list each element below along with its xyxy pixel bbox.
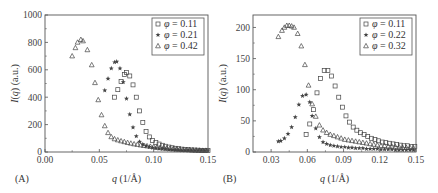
data-marker-star [350,145,355,150]
data-marker-triangle [109,134,114,138]
data-marker-star [317,134,322,139]
legend-entry: φ = 0.32 [372,40,406,51]
data-marker-star [118,66,123,71]
data-marker-square [319,77,323,81]
data-marker-star [102,88,107,93]
data-marker-star [124,96,129,101]
data-marker-star [282,136,287,141]
data-marker-triangle [295,31,300,35]
data-marker-square [311,108,315,112]
data-marker-square [131,83,135,87]
x-axis-label: q (1/Å) [320,173,349,185]
data-marker-square [333,84,337,88]
legend-entry: φ = 0.22 [372,29,406,40]
y-axis-label: I(q) (a.u.) [217,64,229,104]
panel-label: (A) [15,173,29,185]
data-marker-square [113,95,117,99]
data-marker-star [304,92,309,97]
data-marker-star [342,144,347,149]
y-tick-label: 600 [28,65,43,75]
data-marker-triangle [89,62,94,66]
data-marker-star [353,146,358,151]
data-marker-triangle [106,130,111,134]
data-marker-square [144,129,148,133]
data-marker-star [109,66,114,71]
data-marker-square [348,120,352,124]
data-marker-square [315,91,319,95]
data-marker-triangle [96,97,101,101]
panel-b: 0501001502000.030.060.090.120.15q (1/Å)I… [217,15,425,185]
y-axis-label: I(q) (a.u.) [9,64,21,104]
data-marker-triangle [299,44,304,48]
y-tick-label: 400 [28,93,43,103]
y-tick-label: 200 [28,120,43,130]
data-marker-star [106,76,111,81]
legend: φ = 0.11φ = 0.21φ = 0.42 [152,18,204,55]
legend-entry: φ = 0.42 [164,40,198,51]
data-marker-star [296,102,301,107]
panel-a: 020040060080010000.000.050.100.15q (1/Å)… [9,10,217,185]
y-tick-label: 800 [28,38,43,48]
data-marker-star [324,141,329,146]
data-marker-triangle [102,123,107,127]
data-marker-star [339,144,344,149]
data-marker-triangle [93,80,98,84]
x-tick-label: 0.15 [200,155,217,165]
y-tick-label: 50 [241,116,251,126]
data-marker-triangle [317,123,322,127]
x-tick-label: 0.03 [263,155,280,165]
data-marker-star [346,145,351,150]
data-marker-star [293,115,298,120]
legend-entry: φ = 0.11 [164,18,197,29]
data-marker-triangle [99,112,104,116]
x-axis-label: q (1/Å) [112,173,141,185]
y-tick-label: 200 [236,23,251,33]
data-marker-triangle [85,47,90,51]
x-tick-label: 0.15 [408,155,425,165]
data-marker-square [138,109,142,113]
data-marker-star [364,146,369,151]
data-marker-star [134,134,139,139]
data-marker-star [360,146,365,151]
x-tick-label: 0.09 [335,155,352,165]
data-marker-star [286,131,291,136]
data-marker-star [368,146,373,151]
data-marker-triangle [306,83,311,87]
data-marker-star [307,100,312,105]
legend-entry: φ = 0.11 [372,18,405,29]
figure: 020040060080010000.000.050.100.15q (1/Å)… [0,0,438,193]
data-marker-star [131,125,136,130]
data-marker-star [335,144,340,149]
x-tick-label: 0.05 [91,155,108,165]
x-tick-label: 0.12 [371,155,388,165]
y-tick-label: 0 [245,147,250,157]
data-marker-triangle [73,45,78,49]
y-tick-label: 150 [236,54,251,64]
data-marker-square [141,121,145,125]
data-marker-star [331,143,336,148]
data-marker-triangle [70,54,75,58]
data-marker-star [357,146,362,151]
data-marker-star [127,112,132,117]
data-marker-square [116,88,120,92]
legend: φ = 0.11φ = 0.22φ = 0.32 [360,18,412,55]
data-marker-triangle [313,114,318,118]
legend-entry: φ = 0.21 [164,29,198,40]
x-tick-label: 0.00 [37,155,54,165]
x-tick-label: 0.10 [145,155,162,165]
panel-label: (B) [223,173,236,185]
y-tick-label: 1000 [23,10,42,20]
data-marker-square [308,122,312,126]
data-marker-triangle [321,128,326,132]
data-marker-square [304,133,308,137]
data-marker-square [337,95,341,99]
y-tick-label: 100 [236,85,251,95]
data-marker-square [340,105,344,109]
x-tick-label: 0.06 [299,155,316,165]
data-marker-square [329,74,333,78]
data-marker-triangle [276,34,281,38]
data-marker-triangle [303,62,308,66]
data-marker-star [289,124,294,129]
data-marker-square [344,114,348,118]
data-marker-square [134,95,138,99]
